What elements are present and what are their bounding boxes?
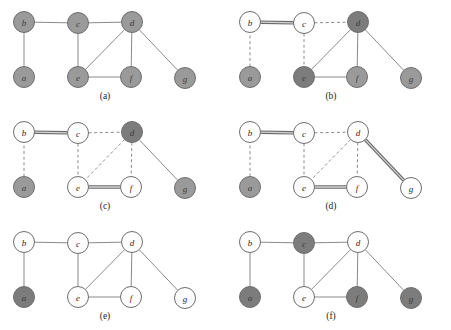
edge-d-e-solid bbox=[311, 29, 350, 69]
node-a-label: a bbox=[22, 293, 27, 303]
node-c-label: c bbox=[302, 19, 306, 29]
edge-d-g-bold-highlight bbox=[365, 140, 404, 181]
node-d[interactable]: d bbox=[122, 122, 143, 143]
node-g-label: g bbox=[409, 184, 414, 194]
node-g[interactable]: g bbox=[401, 288, 422, 309]
node-d[interactable]: d bbox=[122, 12, 143, 33]
edge-d-e-dashed bbox=[85, 139, 124, 179]
panel-c-caption: (c) bbox=[100, 201, 111, 212]
node-f[interactable]: f bbox=[347, 67, 368, 88]
node-e[interactable]: e bbox=[294, 67, 315, 88]
node-e-label: e bbox=[302, 293, 306, 303]
panel-d-caption: (d) bbox=[325, 201, 336, 212]
edge-d-f-dashed bbox=[357, 142, 358, 176]
node-d-label: d bbox=[130, 128, 135, 138]
node-e[interactable]: e bbox=[68, 67, 89, 88]
edge-d-g-solid bbox=[365, 250, 404, 291]
edge-d-e-solid bbox=[311, 249, 350, 289]
edge-c-d-solid bbox=[88, 22, 121, 23]
node-f[interactable]: f bbox=[121, 287, 142, 308]
edge-c-d-dashed bbox=[314, 132, 347, 133]
node-d[interactable]: d bbox=[348, 12, 369, 33]
node-e[interactable]: e bbox=[294, 177, 315, 198]
edge-b-c-solid bbox=[260, 242, 293, 243]
node-a-label: a bbox=[248, 293, 253, 303]
node-b-label: b bbox=[248, 18, 253, 28]
node-a[interactable]: a bbox=[240, 67, 261, 88]
node-f[interactable]: f bbox=[347, 177, 368, 198]
node-c[interactable]: c bbox=[294, 123, 315, 144]
edge-b-c-bold-highlight bbox=[260, 132, 293, 133]
edge-c-d-solid bbox=[314, 242, 347, 243]
node-b[interactable]: b bbox=[240, 122, 261, 143]
node-g[interactable]: g bbox=[175, 178, 196, 199]
edge-b-c-bold-highlight bbox=[34, 132, 67, 133]
node-a[interactable]: a bbox=[240, 287, 261, 308]
node-a-label: a bbox=[248, 73, 253, 83]
node-c[interactable]: c bbox=[68, 233, 89, 254]
node-d-label: d bbox=[356, 18, 361, 28]
node-a[interactable]: a bbox=[240, 177, 261, 198]
panel-f: abcdefg(f) bbox=[226, 220, 451, 330]
node-b[interactable]: b bbox=[14, 122, 35, 143]
node-c-label: c bbox=[76, 239, 80, 249]
node-c-label: c bbox=[302, 129, 306, 139]
node-f[interactable]: f bbox=[121, 177, 142, 198]
edge-c-d-solid bbox=[88, 242, 121, 243]
node-g[interactable]: g bbox=[401, 68, 422, 89]
node-g[interactable]: g bbox=[401, 178, 422, 199]
node-d[interactable]: d bbox=[122, 232, 143, 253]
node-b[interactable]: b bbox=[14, 12, 35, 33]
node-c[interactable]: c bbox=[294, 233, 315, 254]
node-d[interactable]: d bbox=[348, 232, 369, 253]
node-g-label: g bbox=[183, 184, 188, 194]
edge-b-c-solid bbox=[34, 22, 67, 23]
node-d-label: d bbox=[356, 238, 361, 248]
node-c[interactable]: c bbox=[68, 13, 89, 34]
node-a[interactable]: a bbox=[14, 67, 35, 88]
edge-d-g-solid bbox=[365, 30, 404, 71]
node-f[interactable]: f bbox=[347, 287, 368, 308]
edge-d-g-solid bbox=[139, 250, 178, 291]
panel-b-caption: (b) bbox=[325, 91, 336, 102]
node-b[interactable]: b bbox=[14, 232, 35, 253]
edge-d-f-solid bbox=[131, 252, 132, 286]
node-c-label: c bbox=[302, 239, 306, 249]
edge-group bbox=[24, 22, 178, 77]
edge-b-c-solid bbox=[34, 242, 67, 243]
edge-d-g-solid bbox=[139, 30, 178, 71]
node-a[interactable]: a bbox=[14, 177, 35, 198]
node-b-label: b bbox=[248, 238, 253, 248]
node-g[interactable]: g bbox=[175, 68, 196, 89]
node-c[interactable]: c bbox=[68, 123, 89, 144]
node-c-label: c bbox=[76, 129, 80, 139]
node-b[interactable]: b bbox=[240, 12, 261, 33]
edge-d-e-solid bbox=[85, 29, 124, 69]
node-f[interactable]: f bbox=[121, 67, 142, 88]
figure-container: abcdefg(a)abcdefg(b)abcdefg(c)abcdefg(d)… bbox=[0, 0, 451, 330]
node-a-label: a bbox=[22, 73, 27, 83]
node-b-label: b bbox=[248, 128, 253, 138]
node-c[interactable]: c bbox=[294, 13, 315, 34]
edge-group bbox=[250, 22, 404, 77]
node-d-label: d bbox=[130, 18, 135, 28]
node-e[interactable]: e bbox=[294, 287, 315, 308]
edge-group bbox=[250, 132, 404, 187]
node-g-label: g bbox=[409, 74, 414, 84]
node-g-label: g bbox=[183, 294, 188, 304]
node-e[interactable]: e bbox=[68, 177, 89, 198]
edge-d-f-dashed bbox=[131, 142, 132, 176]
node-g[interactable]: g bbox=[175, 288, 196, 309]
edge-d-f-solid bbox=[357, 32, 358, 66]
node-e-label: e bbox=[302, 183, 306, 193]
edge-group bbox=[24, 242, 178, 297]
node-b[interactable]: b bbox=[240, 232, 261, 253]
node-g-label: g bbox=[183, 74, 188, 84]
node-e-label: e bbox=[76, 73, 80, 83]
node-b-label: b bbox=[22, 18, 27, 28]
node-a[interactable]: a bbox=[14, 287, 35, 308]
node-e[interactable]: e bbox=[68, 287, 89, 308]
panel-a-caption: (a) bbox=[100, 91, 111, 102]
node-b-label: b bbox=[22, 238, 27, 248]
node-d[interactable]: d bbox=[348, 122, 369, 143]
